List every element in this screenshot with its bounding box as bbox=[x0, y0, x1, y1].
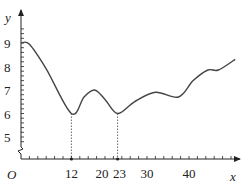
y-tick-label: 5 bbox=[4, 130, 11, 145]
function-graph: Oxy122023304056789 bbox=[0, 0, 245, 187]
axis-break-icon bbox=[18, 147, 23, 159]
x-tick-label: 20 bbox=[96, 166, 109, 181]
x-tick-label: 40 bbox=[183, 166, 196, 181]
origin-label: O bbox=[7, 167, 17, 182]
axis-ticks bbox=[21, 29, 231, 159]
y-tick-label: 7 bbox=[4, 83, 11, 98]
y-axis-label: y bbox=[3, 10, 11, 25]
drop-lines bbox=[70, 114, 119, 161]
x-axis-label: x bbox=[229, 169, 236, 184]
y-tick-label: 8 bbox=[4, 60, 11, 75]
y-tick-label: 6 bbox=[4, 107, 11, 122]
x-tick-label: 23 bbox=[113, 166, 126, 181]
x-tick-label: 30 bbox=[141, 166, 154, 181]
axes bbox=[18, 10, 240, 159]
point-marker bbox=[70, 157, 73, 160]
y-tick-label: 9 bbox=[4, 36, 11, 51]
function-curve bbox=[21, 42, 235, 114]
x-tick-label: 12 bbox=[65, 166, 78, 181]
point-marker bbox=[116, 157, 119, 160]
